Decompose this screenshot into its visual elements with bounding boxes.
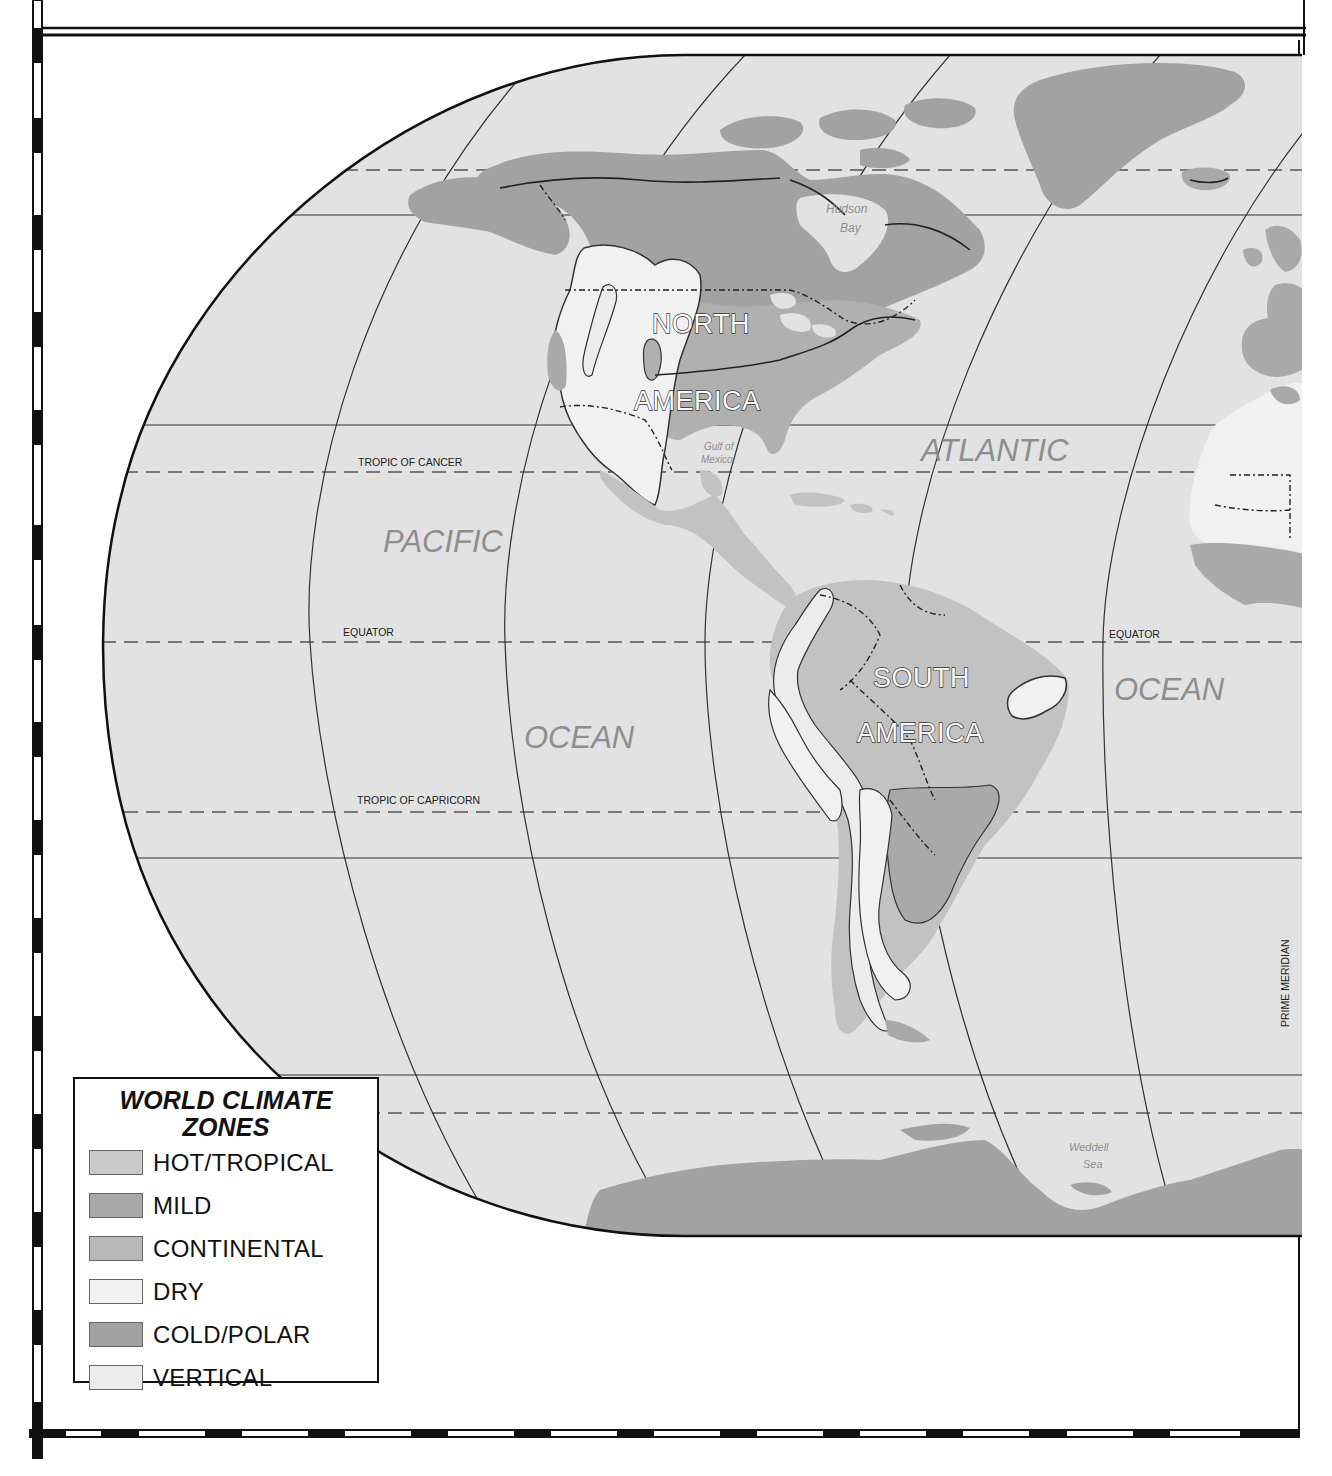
gulf-of-mexico-label-1: Gulf of: [704, 441, 735, 452]
hudson-bay-label-2: Bay: [840, 221, 862, 235]
pacific-ocean-label: OCEAN: [524, 720, 635, 755]
swatch-cold-polar: [89, 1322, 143, 1347]
legend-item-cold-polar: COLD/POLAR: [89, 1313, 377, 1356]
swatch-dry: [89, 1279, 143, 1304]
south-america-label-2: AMERICA: [857, 718, 984, 748]
equator-label-left: EQUATOR: [343, 626, 394, 638]
swatch-continental: [89, 1236, 143, 1261]
legend-title: WORLD CLIMATE ZONES: [75, 1087, 377, 1141]
south-america-label-1: SOUTH: [873, 663, 970, 693]
tropic-of-cancer-label: TROPIC OF CANCER: [358, 456, 463, 468]
hudson-bay-label-1: Hudson: [826, 202, 868, 216]
legend-label: DRY: [153, 1278, 204, 1306]
north-america-label-2: AMERICA: [634, 386, 761, 416]
map-page: TROPIC OF CANCER EQUATOR EQUATOR TROPIC …: [0, 0, 1332, 1476]
swatch-vertical: [89, 1365, 143, 1390]
atlantic-label: ATLANTIC: [919, 433, 1069, 468]
weddell-sea-label-1: Weddell: [1069, 1141, 1109, 1153]
legend-item-vertical: VERTICAL: [89, 1356, 377, 1399]
north-america-label-1: NORTH: [652, 309, 750, 339]
legend-label: HOT/TROPICAL: [153, 1149, 334, 1177]
legend-title-line2: ZONES: [75, 1114, 377, 1141]
weddell-sea-label-2: Sea: [1083, 1158, 1103, 1170]
swatch-mild: [89, 1193, 143, 1218]
legend-label: CONTINENTAL: [153, 1235, 324, 1263]
equator-label-right: EQUATOR: [1109, 628, 1160, 640]
legend-label: COLD/POLAR: [153, 1321, 311, 1349]
legend-label: VERTICAL: [153, 1364, 272, 1392]
atlantic-ocean-label: OCEAN: [1114, 672, 1225, 707]
legend-item-mild: MILD: [89, 1184, 377, 1227]
legend-item-dry: DRY: [89, 1270, 377, 1313]
gulf-of-mexico-label-2: Mexico: [701, 454, 733, 465]
swatch-hot-tropical: [89, 1150, 143, 1175]
legend: WORLD CLIMATE ZONES HOT/TROPICAL MILD CO…: [73, 1077, 379, 1383]
legend-item-hot-tropical: HOT/TROPICAL: [89, 1141, 377, 1184]
legend-item-continental: CONTINENTAL: [89, 1227, 377, 1270]
pacific-label: PACIFIC: [383, 524, 504, 559]
legend-label: MILD: [153, 1192, 212, 1220]
tropic-of-capricorn-label: TROPIC OF CAPRICORN: [357, 794, 480, 806]
legend-title-line1: WORLD CLIMATE: [75, 1087, 377, 1114]
prime-meridian-label: PRIME MERIDIAN: [1279, 939, 1291, 1027]
